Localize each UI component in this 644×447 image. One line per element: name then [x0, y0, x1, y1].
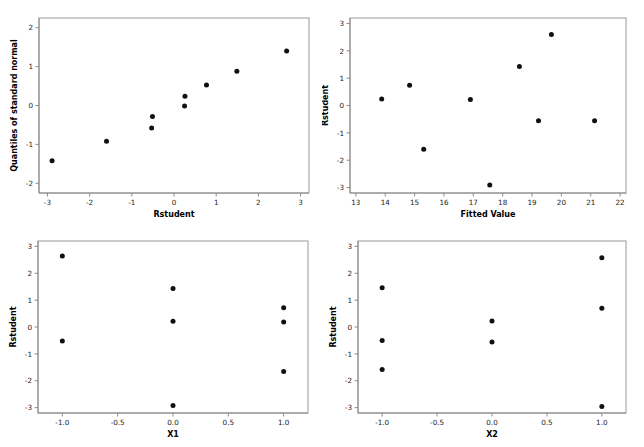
- y-tick-label: -2: [25, 376, 32, 385]
- data-point: [150, 114, 155, 119]
- panel-qq-plot: -3-2-10123-2-1012RstudentQuantiles of st…: [0, 0, 322, 224]
- y-tick-label: -2: [26, 179, 33, 188]
- figure-canvas: -3-2-10123-2-1012RstudentQuantiles of st…: [0, 0, 644, 447]
- y-tick-label: 3: [347, 242, 352, 251]
- data-point: [599, 255, 604, 260]
- data-point: [182, 94, 187, 99]
- data-point: [284, 49, 289, 54]
- x-tick-label: 3: [298, 198, 303, 207]
- x-tick-label: 14: [381, 198, 391, 207]
- y-tick-label: -1: [337, 129, 344, 138]
- x-tick-label: -1.0: [55, 418, 69, 427]
- x-tick-label: 1.0: [278, 418, 290, 427]
- x-tick-label: 1: [214, 198, 219, 207]
- x-axis-title: Fitted Value: [461, 210, 516, 219]
- x-tick-label: 2: [256, 198, 261, 207]
- y-tick-label: 1: [347, 296, 352, 305]
- y-tick-label: -2: [345, 376, 352, 385]
- data-point: [380, 338, 385, 343]
- data-point: [407, 83, 412, 88]
- data-point: [549, 32, 554, 37]
- data-point: [517, 64, 522, 69]
- y-tick-label: 3: [339, 19, 344, 28]
- data-point: [380, 285, 385, 290]
- y-tick-label: 1: [339, 74, 344, 83]
- y-tick-label: 2: [347, 269, 352, 278]
- x-tick-label: 0.5: [541, 418, 552, 427]
- data-point: [380, 367, 385, 372]
- x-tick-label: 15: [410, 198, 419, 207]
- x-tick-label: -2: [86, 198, 93, 207]
- y-tick-label: -3: [337, 183, 344, 192]
- plot-residual-vs-fitted: 13141516171819202122-3-2-10123Fitted Val…: [322, 0, 644, 224]
- y-axis-title: Rstudent: [322, 85, 330, 126]
- data-point: [599, 306, 604, 311]
- y-tick-label: 2: [28, 23, 33, 32]
- x-tick-label: 0.5: [223, 418, 234, 427]
- data-point: [171, 286, 176, 291]
- x-axis-title: X2: [486, 430, 498, 439]
- data-point: [204, 82, 209, 87]
- y-tick-label: 1: [28, 62, 33, 71]
- x-tick-label: 0: [172, 198, 177, 207]
- x-tick-label: 16: [439, 198, 449, 207]
- x-tick-label: 20: [557, 198, 567, 207]
- x-axis-title: Rstudent: [153, 210, 194, 219]
- y-axis-title: Quantiles of standard normal: [10, 39, 19, 172]
- y-tick-label: 0: [347, 323, 352, 332]
- data-point: [60, 338, 65, 343]
- data-point: [171, 319, 176, 324]
- plot-frame: [358, 241, 626, 413]
- x-tick-label: -0.5: [111, 418, 125, 427]
- x-tick-label: -3: [44, 198, 51, 207]
- data-point: [487, 183, 492, 188]
- panel-residual-vs-x1: -1.0-0.50.00.51.0-3-2-10123X1Rstudent: [0, 224, 322, 447]
- x-tick-label: 17: [469, 198, 478, 207]
- data-point: [281, 369, 286, 374]
- x-tick-label: 1.0: [596, 418, 608, 427]
- plot-frame: [350, 18, 626, 193]
- data-point: [490, 340, 495, 345]
- x-tick-label: 18: [498, 198, 508, 207]
- x-tick-label: -1.0: [375, 418, 389, 427]
- x-tick-label: 13: [351, 198, 360, 207]
- data-point: [234, 69, 239, 74]
- panel-residual-vs-x2: -1.0-0.50.00.51.0-3-2-10123X2Rstudent: [322, 224, 644, 447]
- data-point: [50, 158, 55, 163]
- y-tick-label: 0: [27, 323, 32, 332]
- y-tick-label: -1: [345, 350, 352, 359]
- data-point: [490, 319, 495, 324]
- data-point: [182, 103, 187, 108]
- data-point: [379, 96, 384, 101]
- data-point: [60, 254, 65, 259]
- y-tick-label: 1: [27, 296, 32, 305]
- y-tick-label: 3: [27, 242, 32, 251]
- y-tick-label: -2: [337, 156, 344, 165]
- y-tick-label: 0: [28, 101, 33, 110]
- plot-qq-plot: -3-2-10123-2-1012RstudentQuantiles of st…: [0, 0, 322, 224]
- plot-residual-vs-x1: -1.0-0.50.00.51.0-3-2-10123X1Rstudent: [0, 224, 322, 447]
- x-tick-label: 22: [616, 198, 625, 207]
- y-tick-label: -1: [25, 350, 32, 359]
- x-tick-label: 21: [586, 198, 595, 207]
- y-axis-title: Rstudent: [9, 306, 18, 347]
- data-point: [281, 319, 286, 324]
- y-tick-label: 0: [339, 101, 344, 110]
- x-tick-label: 0.0: [167, 418, 179, 427]
- data-point: [421, 147, 426, 152]
- panel-residual-vs-fitted: 13141516171819202122-3-2-10123Fitted Val…: [322, 0, 644, 224]
- y-axis-title: Rstudent: [329, 306, 338, 347]
- data-point: [536, 118, 541, 123]
- data-point: [171, 403, 176, 408]
- data-point: [468, 97, 473, 102]
- plot-frame: [38, 241, 308, 413]
- plot-frame: [39, 18, 309, 193]
- data-point: [599, 404, 604, 409]
- y-tick-label: 2: [339, 47, 344, 56]
- y-tick-label: -3: [25, 403, 32, 412]
- y-tick-label: -3: [345, 403, 352, 412]
- x-axis-title: X1: [167, 430, 179, 439]
- x-tick-label: 19: [527, 198, 537, 207]
- x-tick-label: -1: [128, 198, 135, 207]
- y-tick-label: 2: [27, 269, 32, 278]
